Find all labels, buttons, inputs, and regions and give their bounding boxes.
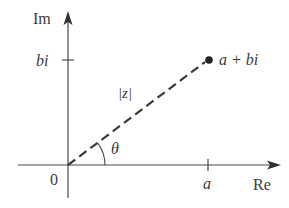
- imaginary-axis-label: Im: [33, 10, 51, 27]
- origin-label: 0: [50, 171, 58, 188]
- modulus-vector: [68, 62, 205, 165]
- point-label: a + bi: [219, 51, 258, 68]
- point-a-plus-bi: [205, 56, 213, 64]
- theta-arc: [98, 143, 105, 165]
- complex-plane-diagram: Im Re 0 bi a a + bi |z| θ: [0, 0, 289, 208]
- bi-tick-label: bi: [36, 52, 48, 69]
- real-axis-label: Re: [253, 176, 271, 193]
- modulus-label: |z|: [118, 85, 132, 101]
- a-tick-label: a: [203, 175, 211, 192]
- theta-label: θ: [111, 140, 119, 157]
